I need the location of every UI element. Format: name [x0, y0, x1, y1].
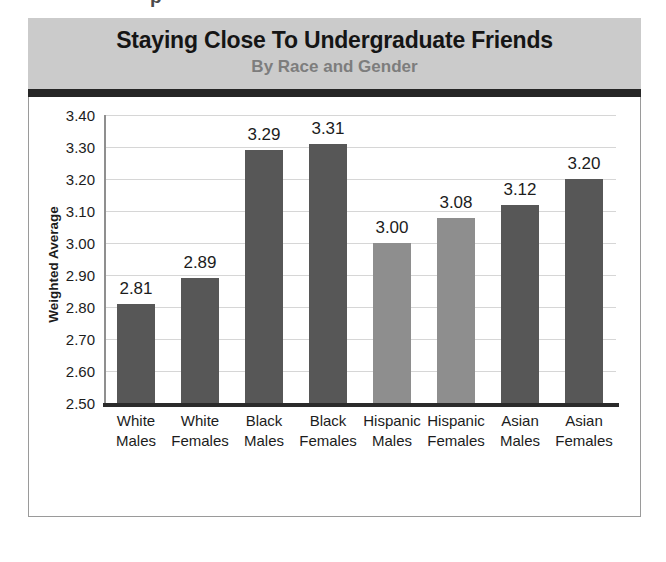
bar-value-label: 3.08	[439, 193, 472, 213]
x-axis-category-label-line: Hispanic	[360, 411, 424, 431]
bar[interactable]: 2.81	[117, 304, 155, 403]
y-axis-tick-label: 3.40	[66, 107, 95, 124]
x-axis-category-label: AsianMales	[488, 411, 552, 452]
x-axis-baseline	[103, 403, 619, 407]
bar-value-label: 3.20	[567, 154, 600, 174]
bar-slot: 3.29	[232, 115, 296, 403]
x-axis-category-labels: WhiteMalesWhiteFemalesBlackMalesBlackFem…	[104, 411, 616, 452]
chart-figure: Staying Close To Undergraduate Friends B…	[28, 18, 641, 517]
bar-slot: 3.12	[488, 115, 552, 403]
x-axis-category-label-line: Asian	[488, 411, 552, 431]
bar-slot: 3.31	[296, 115, 360, 403]
chart-plot-card: Weighted Average 3.403.303.203.103.002.9…	[28, 97, 641, 517]
bar-value-label: 3.00	[375, 218, 408, 238]
y-axis-tick-label: 2.70	[66, 331, 95, 348]
plot-area: 3.403.303.203.103.002.902.802.702.602.50…	[104, 115, 616, 403]
x-axis-category-label: BlackMales	[232, 411, 296, 452]
x-axis-category-label: WhiteFemales	[168, 411, 232, 452]
x-axis-category-label-line: Males	[488, 431, 552, 451]
x-axis-category-label-line: Hispanic	[424, 411, 488, 431]
x-axis-category-label: BlackFemales	[296, 411, 360, 452]
bar-value-label: 3.29	[247, 125, 280, 145]
x-axis-category-label-line: White	[168, 411, 232, 431]
bar[interactable]: 3.20	[565, 179, 603, 403]
bar[interactable]: 2.89	[181, 278, 219, 403]
x-axis-category-label-line: Females	[552, 431, 616, 451]
bar-slot: 3.00	[360, 115, 424, 403]
bar-slot: 2.81	[104, 115, 168, 403]
x-axis-category-label: HispanicMales	[360, 411, 424, 452]
y-axis-tick-label: 2.90	[66, 267, 95, 284]
bar-slot: 2.89	[168, 115, 232, 403]
x-axis-category-label-line: Males	[232, 431, 296, 451]
bar-series: 2.812.893.293.313.003.083.123.20	[104, 115, 616, 403]
y-axis-tick-label: 3.30	[66, 139, 95, 156]
chart-subtitle: By Race and Gender	[28, 56, 641, 78]
y-axis-tick-label: 3.20	[66, 171, 95, 188]
title-divider-rule	[28, 89, 641, 97]
bar[interactable]: 3.08	[437, 218, 475, 404]
x-axis-category-label: WhiteMales	[104, 411, 168, 452]
top-fragment-text: p	[150, 0, 162, 8]
y-axis-tick-label: 3.00	[66, 235, 95, 252]
bar-slot: 3.20	[552, 115, 616, 403]
bar-value-label: 3.12	[503, 180, 536, 200]
x-axis-category-label-line: Black	[232, 411, 296, 431]
x-axis-category-label-line: Females	[296, 431, 360, 451]
bar[interactable]: 3.12	[501, 205, 539, 403]
x-axis-category-label-line: White	[104, 411, 168, 431]
y-axis-tick-label: 2.60	[66, 363, 95, 380]
bar-value-label: 2.89	[183, 253, 216, 273]
y-axis-tick-label: 3.10	[66, 203, 95, 220]
x-axis-category-label-line: Males	[360, 431, 424, 451]
y-axis-tick-label: 2.80	[66, 299, 95, 316]
x-axis-category-label: HispanicFemales	[424, 411, 488, 452]
bar[interactable]: 3.00	[373, 243, 411, 403]
page-top-text-fragment: p	[0, 0, 666, 16]
x-axis-category-label-line: Males	[104, 431, 168, 451]
chart-title-banner: Staying Close To Undergraduate Friends B…	[28, 18, 641, 89]
bar[interactable]: 3.29	[245, 150, 283, 403]
chart-title: Staying Close To Undergraduate Friends	[28, 27, 641, 54]
bar-slot: 3.08	[424, 115, 488, 403]
x-axis-category-label: AsianFemales	[552, 411, 616, 452]
x-axis-category-label-line: Females	[168, 431, 232, 451]
y-axis-tick-label: 2.50	[66, 395, 95, 412]
x-axis-category-label-line: Black	[296, 411, 360, 431]
bar-value-label: 2.81	[119, 279, 152, 299]
bar[interactable]: 3.31	[309, 144, 347, 403]
bar-value-label: 3.31	[311, 119, 344, 139]
y-axis-tick-labels: 3.403.303.203.103.002.902.802.702.602.50	[29, 115, 95, 403]
x-axis-category-label-line: Asian	[552, 411, 616, 431]
x-axis-category-label-line: Females	[424, 431, 488, 451]
